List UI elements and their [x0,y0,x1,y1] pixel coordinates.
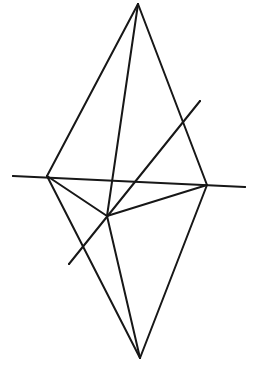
vertex-center-node [106,215,108,217]
figure-container [0,0,253,368]
figure-background [0,0,253,368]
vertex-top-apex [137,3,139,5]
vertex-bottom-apex [139,357,141,359]
vertex-oblique-bot-end [68,263,70,265]
vertex-left-vertex [46,175,48,177]
vertex-axis-right-end [244,186,246,188]
polyhedron-line-drawing [0,0,253,368]
vertex-oblique-top-end [199,100,201,102]
vertex-right-vertex [206,184,208,186]
vertex-axis-left-end [12,175,14,177]
